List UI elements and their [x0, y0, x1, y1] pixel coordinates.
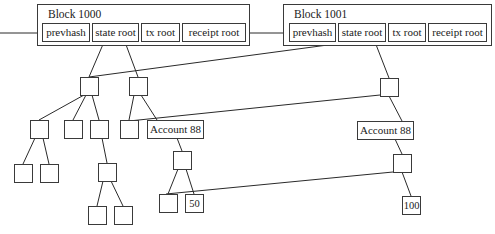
trie-node [120, 120, 139, 139]
account-88-old: Account 88 [147, 120, 204, 139]
block-1000-receipt-root: receipt root [182, 23, 246, 42]
trie-node [129, 77, 148, 96]
balance-leaf-new: 100 [402, 196, 421, 215]
trie-node [64, 120, 83, 139]
trie-node [98, 163, 117, 182]
block-1001-prevhash: prevhash [289, 23, 336, 42]
block-1001-tx-root: tx root [388, 23, 426, 42]
shared-leaf-node [159, 194, 178, 213]
block-1001-receipt-root: receipt root [428, 23, 487, 42]
trie-node [114, 206, 133, 225]
trie-node-1001-root [380, 78, 399, 97]
account-node-new [393, 154, 412, 173]
trie-node [88, 206, 107, 225]
trie-node [80, 77, 99, 96]
balance-leaf-old: 50 [185, 194, 204, 213]
account-node-old [173, 151, 192, 170]
block-1000-state-root: state root [92, 23, 139, 42]
block-1001-state-root: state root [338, 23, 386, 42]
block-title: Block 1001 [294, 8, 347, 20]
trie-node [14, 164, 33, 183]
block-1000-prevhash: prevhash [42, 23, 90, 42]
trie-node [40, 164, 59, 183]
trie-node [90, 120, 109, 139]
account-88-new: Account 88 [357, 121, 414, 140]
trie-node [30, 120, 49, 139]
block-title: Block 1000 [48, 8, 101, 20]
block-1000-tx-root: tx root [141, 23, 180, 42]
